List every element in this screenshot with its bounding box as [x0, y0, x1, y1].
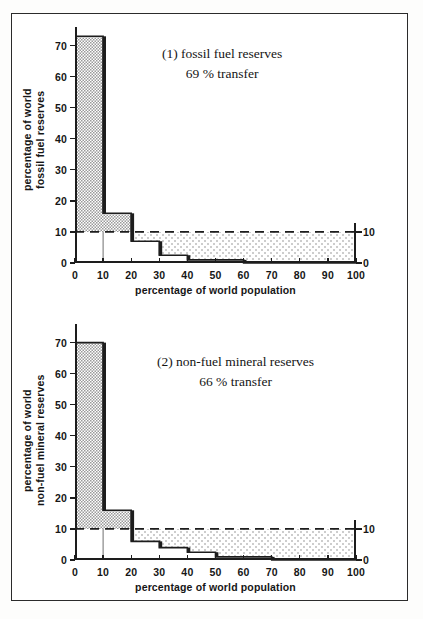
x-tick-50	[215, 555, 216, 560]
x-tick-20	[131, 555, 132, 560]
right-y-tick-10	[356, 528, 362, 530]
y-tick-label-0: 0	[61, 257, 67, 269]
x-tick-60	[243, 258, 244, 263]
right-y-tick-label-10: 10	[363, 523, 375, 535]
plot-area-1: percentage of world fossil fuel reserves…	[75, 27, 356, 263]
right-y-tick-0	[356, 262, 362, 264]
x-tick-label-100: 100	[347, 566, 365, 578]
y-tick-20	[70, 200, 75, 201]
y-tick-10	[70, 231, 75, 232]
x-tick-label-40: 40	[181, 566, 193, 578]
surplus-region-fossil-fuel	[75, 36, 356, 232]
y-tick-30	[70, 466, 75, 467]
x-tick-label-80: 80	[294, 269, 306, 281]
figure-page: (1) fossil fuel reserves 69 % transfer p…	[0, 0, 423, 619]
chart-title-2: (2) non-fuel mineral reserves 66 % trans…	[157, 352, 314, 392]
y-tick-label-60: 60	[55, 368, 67, 380]
x-tick-10	[102, 555, 103, 560]
y-tick-40	[70, 138, 75, 139]
x-tick-label-40: 40	[181, 269, 193, 281]
y-tick-label-30: 30	[55, 461, 67, 473]
chart-title-2-line1: (2) non-fuel mineral reserves	[157, 354, 314, 369]
right-y-tick-label-0: 0	[363, 257, 369, 269]
right-y-tick-label-10: 10	[363, 226, 375, 238]
x-tick-label-100: 100	[347, 269, 365, 281]
x-tick-40	[187, 258, 188, 263]
y-tick-0	[70, 559, 75, 560]
y-tick-label-70: 70	[55, 337, 67, 349]
y-tick-label-50: 50	[55, 399, 67, 411]
x-tick-label-60: 60	[238, 566, 250, 578]
figure-frame: (1) fossil fuel reserves 69 % transfer p…	[11, 13, 408, 601]
x-tick-label-90: 90	[322, 566, 334, 578]
x-tick-label-80: 80	[294, 566, 306, 578]
x-tick-label-60: 60	[238, 269, 250, 281]
y-axis-title-2: percentage of world non-fuel mineral res…	[21, 338, 47, 543]
x-tick-70	[271, 555, 272, 560]
x-tick-label-20: 20	[125, 269, 137, 281]
y-axis-title-1: percentage of world fossil fuel reserves	[21, 45, 47, 235]
y-axis-title-2-line1: percentage of world	[21, 389, 33, 492]
x-tick-label-30: 30	[153, 566, 165, 578]
x-tick-label-10: 10	[97, 566, 109, 578]
y-tick-label-60: 60	[55, 71, 67, 83]
y-tick-label-10: 10	[55, 523, 67, 535]
y-tick-label-20: 20	[55, 492, 67, 504]
y-axis-line-1	[75, 27, 77, 263]
x-tick-label-70: 70	[266, 566, 278, 578]
y-tick-60	[70, 76, 75, 77]
x-tick-label-30: 30	[153, 269, 165, 281]
y-tick-label-40: 40	[55, 133, 67, 145]
data-area-1	[75, 27, 356, 263]
y-tick-60	[70, 373, 75, 374]
x-axis-title-2: percentage of world population	[135, 581, 296, 593]
series-step-fossil-fuel	[75, 27, 356, 263]
y-axis-line-2	[75, 324, 77, 560]
x-tick-label-10: 10	[97, 269, 109, 281]
x-tick-10	[102, 258, 103, 263]
x-axis-title-1: percentage of world population	[135, 284, 296, 296]
y-tick-70	[70, 45, 75, 46]
y-tick-label-30: 30	[55, 164, 67, 176]
y-axis-title-1-line1: percentage of world	[21, 89, 33, 192]
x-tick-80	[299, 258, 300, 263]
right-axis-line-non-fuel-mineral	[354, 520, 356, 560]
right-y-tick-10	[356, 231, 362, 233]
chart-panel-fossil-fuel: (1) fossil fuel reserves 69 % transfer p…	[12, 14, 409, 310]
right-y-tick-label-0: 0	[363, 554, 369, 566]
y-tick-50	[70, 107, 75, 108]
x-tick-label-0: 0	[72, 566, 78, 578]
x-tick-70	[271, 258, 272, 263]
x-tick-80	[299, 555, 300, 560]
x-tick-60	[243, 555, 244, 560]
x-tick-label-90: 90	[322, 269, 334, 281]
y-tick-label-0: 0	[61, 554, 67, 566]
x-tick-30	[159, 555, 160, 560]
x-tick-label-50: 50	[209, 269, 221, 281]
y-tick-label-50: 50	[55, 102, 67, 114]
x-tick-90	[327, 555, 328, 560]
y-tick-50	[70, 404, 75, 405]
x-tick-40	[187, 555, 188, 560]
x-tick-50	[215, 258, 216, 263]
right-y-tick-0	[356, 559, 362, 561]
x-tick-90	[327, 258, 328, 263]
x-tick-label-20: 20	[125, 566, 137, 578]
y-tick-10	[70, 528, 75, 529]
chart-title-2-line2: 66 % transfer	[157, 372, 314, 392]
y-tick-40	[70, 435, 75, 436]
y-tick-label-20: 20	[55, 195, 67, 207]
y-tick-label-10: 10	[55, 226, 67, 238]
right-axis-line-fossil-fuel	[354, 223, 356, 263]
y-tick-label-70: 70	[55, 40, 67, 52]
y-axis-title-2-line2: non-fuel mineral reserves	[34, 375, 46, 507]
x-tick-20	[131, 258, 132, 263]
y-tick-label-40: 40	[55, 430, 67, 442]
x-tick-30	[159, 258, 160, 263]
x-tick-label-50: 50	[209, 566, 221, 578]
x-tick-label-70: 70	[266, 269, 278, 281]
x-tick-label-0: 0	[72, 269, 78, 281]
y-tick-30	[70, 169, 75, 170]
y-tick-70	[70, 342, 75, 343]
y-tick-0	[70, 262, 75, 263]
